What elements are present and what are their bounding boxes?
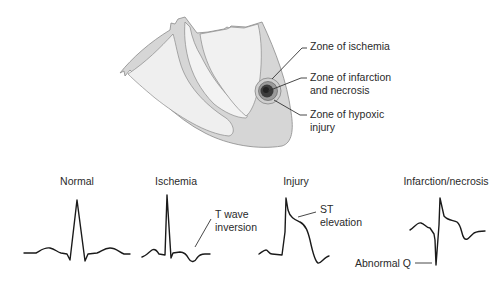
ischemia-diagram: Zone of ischemia Zone of infarction and … — [0, 0, 503, 281]
label-zone-infarction-2: and necrosis — [310, 84, 370, 96]
st-elevation-leader — [298, 212, 316, 217]
label-zone-hypoxic-1: Zone of hypoxic — [310, 108, 384, 120]
label-zone-ischemia: Zone of ischemia — [310, 40, 390, 52]
annotation-st-1: ST — [320, 203, 334, 215]
zone-core — [263, 87, 269, 93]
ecg-trace-ischemia — [142, 195, 210, 262]
heart-cross-section — [120, 17, 292, 147]
annotation-st-2: elevation — [320, 216, 362, 228]
ecg-title-ischemia: Ischemia — [155, 175, 197, 187]
label-zone-hypoxic-2: injury — [310, 121, 336, 133]
annotation-t-wave-1: T wave — [215, 208, 249, 220]
ecg-trace-injury — [259, 198, 329, 263]
t-wave-leader — [195, 219, 211, 247]
ecg-title-infarction: Infarction/necrosis — [403, 175, 488, 187]
annotation-abnormal-q: Abnormal Q — [355, 257, 411, 269]
heart-labels: Zone of ischemia Zone of infarction and … — [310, 40, 391, 133]
ecg-titles: Normal Ischemia Injury Infarction/necros… — [60, 175, 489, 187]
ecg-title-normal: Normal — [60, 175, 94, 187]
annotation-t-wave-2: inversion — [215, 221, 257, 233]
ecg-trace-infarction — [410, 198, 485, 265]
ecg-title-injury: Injury — [283, 175, 309, 187]
ecg-trace-normal — [24, 200, 130, 261]
label-zone-infarction-1: Zone of infarction — [310, 71, 391, 83]
